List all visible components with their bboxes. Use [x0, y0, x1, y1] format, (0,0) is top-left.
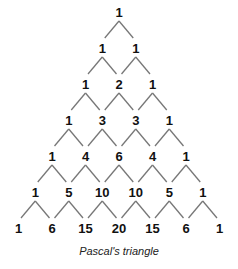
triangle-number: 1	[149, 78, 156, 91]
triangle-number: 6	[48, 222, 55, 235]
triangle-number: 1	[166, 114, 173, 127]
triangle-number: 1	[216, 222, 223, 235]
triangle-number: 4	[82, 150, 89, 163]
triangle-number: 1	[65, 114, 72, 127]
triangle-number: 1	[115, 6, 122, 19]
triangle-number: 15	[78, 222, 92, 235]
triangle-number: 3	[132, 114, 139, 127]
triangle-number: 1	[32, 186, 39, 199]
triangle-number: 1	[48, 150, 55, 163]
triangle-number: 1	[182, 150, 189, 163]
triangle-number: 3	[99, 114, 106, 127]
triangle-number: 15	[145, 222, 159, 235]
triangle-number: 5	[65, 186, 72, 199]
triangle-number: 1	[99, 42, 106, 55]
triangle-number: 10	[95, 186, 109, 199]
triangle-number: 1	[199, 186, 206, 199]
triangle-number: 6	[115, 150, 122, 163]
triangle-number: 10	[129, 186, 143, 199]
pascals-triangle-diagram: 111121133114641151010511615201561 Pascal…	[0, 0, 238, 269]
triangle-number: 6	[182, 222, 189, 235]
triangle-number: 5	[166, 186, 173, 199]
triangle-number: 4	[149, 150, 156, 163]
triangle-number: 1	[15, 222, 22, 235]
triangle-number: 1	[132, 42, 139, 55]
triangle-number: 2	[115, 78, 122, 91]
triangle-number: 20	[112, 222, 126, 235]
triangle-number: 1	[82, 78, 89, 91]
caption: Pascal's triangle	[0, 245, 238, 257]
